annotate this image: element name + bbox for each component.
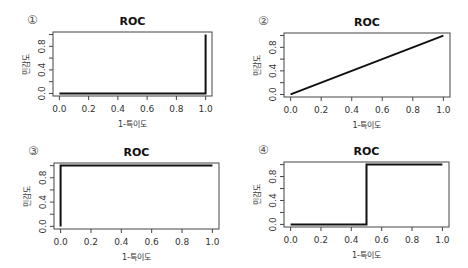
y-tick-label: 0.4 bbox=[37, 62, 47, 77]
y-tick-label: 0.0 bbox=[268, 87, 278, 102]
x-tick-label: 0.2 bbox=[314, 235, 328, 245]
roc-panel-1: ①ROC0.00.20.40.60.81.00.00.40.81-특이도민감도 bbox=[21, 13, 213, 129]
x-tick-label: 1.0 bbox=[435, 235, 450, 245]
x-tick-label: 0.2 bbox=[314, 105, 328, 115]
x-tick-label: 0.0 bbox=[283, 105, 298, 115]
x-tick-label: 0.8 bbox=[175, 237, 190, 247]
y-tick-label: 0.0 bbox=[38, 219, 48, 234]
panel-number: ① bbox=[27, 13, 38, 27]
x-tick-label: 0.0 bbox=[53, 237, 68, 247]
x-tick-label: 0.4 bbox=[111, 104, 126, 114]
x-tick-label: 0.2 bbox=[81, 104, 95, 114]
y-tick-label: 0.8 bbox=[37, 39, 47, 54]
x-tick-label: 0.4 bbox=[114, 237, 129, 247]
chart-canvas: ①ROC0.00.20.40.60.81.00.00.40.81-특이도민감도②… bbox=[0, 0, 468, 268]
roc-curve bbox=[291, 165, 443, 225]
x-tick-label: 1.0 bbox=[436, 105, 451, 115]
y-axis-label: 민감도 bbox=[22, 186, 32, 207]
y-axis-label: 민감도 bbox=[252, 184, 262, 205]
chart-title: ROC bbox=[354, 145, 380, 158]
plot-frame bbox=[53, 32, 212, 96]
x-tick-label: 1.0 bbox=[198, 104, 213, 114]
panel-number: ② bbox=[258, 14, 269, 28]
panel-number: ③ bbox=[28, 144, 39, 158]
roc-curve bbox=[291, 36, 444, 95]
x-tick-label: 0.0 bbox=[52, 104, 67, 114]
x-tick-label: 0.8 bbox=[169, 104, 184, 114]
x-tick-label: 0.4 bbox=[344, 235, 359, 245]
y-axis-label: 민감도 bbox=[252, 55, 262, 76]
y-tick-label: 0.4 bbox=[38, 195, 48, 210]
y-tick-label: 0.8 bbox=[268, 169, 278, 184]
chart-title: ROC bbox=[124, 146, 150, 159]
panel-number: ④ bbox=[258, 143, 269, 157]
x-tick-label: 0.6 bbox=[145, 237, 160, 247]
x-tick-label: 0.0 bbox=[283, 235, 298, 245]
x-tick-label: 0.8 bbox=[406, 105, 421, 115]
chart-title: ROC bbox=[120, 15, 146, 28]
x-tick-label: 0.6 bbox=[375, 235, 390, 245]
x-axis-label: 1-특이도 bbox=[118, 119, 147, 129]
chart-title: ROC bbox=[354, 16, 380, 29]
x-tick-label: 1.0 bbox=[205, 237, 220, 247]
x-tick-label: 0.8 bbox=[405, 235, 420, 245]
x-tick-label: 0.6 bbox=[140, 104, 155, 114]
y-tick-label: 0.4 bbox=[268, 63, 278, 78]
roc-curve bbox=[61, 166, 213, 227]
plot-frame bbox=[54, 163, 219, 229]
y-tick-label: 0.8 bbox=[38, 170, 48, 185]
y-tick-label: 0.0 bbox=[37, 86, 47, 101]
roc-panel-3: ③ROC0.00.20.40.60.81.00.00.40.81-특이도민감도 bbox=[22, 144, 220, 262]
x-axis-label: 1-특이도 bbox=[353, 120, 382, 130]
roc-panel-2: ②ROC0.00.20.40.60.81.00.00.40.81-특이도민감도 bbox=[252, 14, 451, 130]
x-tick-label: 0.2 bbox=[84, 237, 98, 247]
y-tick-label: 0.4 bbox=[268, 193, 278, 208]
roc-panel-4: ④ROC0.00.20.40.60.81.00.00.40.81-특이도민감도 bbox=[252, 143, 450, 260]
y-tick-label: 0.0 bbox=[268, 217, 278, 232]
y-tick-label: 0.8 bbox=[268, 40, 278, 55]
roc-curve bbox=[59, 35, 205, 94]
y-axis-label: 민감도 bbox=[21, 54, 31, 75]
x-axis-label: 1-특이도 bbox=[122, 252, 151, 262]
x-axis-label: 1-특이도 bbox=[352, 250, 381, 260]
x-tick-label: 0.6 bbox=[375, 105, 390, 115]
x-tick-label: 0.4 bbox=[345, 105, 360, 115]
